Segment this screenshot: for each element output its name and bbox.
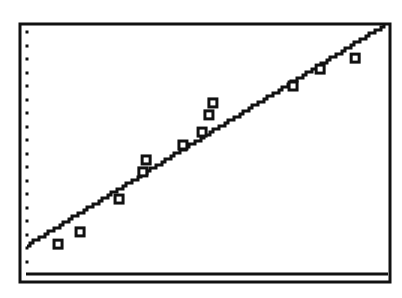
data-point [289,82,297,90]
y-tick [26,234,29,237]
y-tick [26,72,29,75]
data-point [316,65,324,73]
y-tick [26,166,29,169]
y-tick [26,220,29,223]
data-point [198,128,206,136]
y-tick [26,180,29,183]
data-point [179,141,187,149]
y-tick [26,45,29,48]
data-point [139,168,147,176]
y-tick [26,193,29,196]
y-tick [26,31,29,34]
y-tick [26,261,29,264]
y-tick [26,112,29,115]
data-point [351,54,359,62]
scatter-plot [0,0,402,298]
y-tick [26,126,29,129]
data-point [76,228,84,236]
y-tick [26,153,29,156]
y-tick [26,99,29,102]
y-axis-ticks [26,31,29,264]
y-tick [26,58,29,61]
data-points [54,54,359,248]
graph-frame [20,24,390,282]
y-tick [26,139,29,142]
data-point [142,156,150,164]
y-tick [26,207,29,210]
data-point [205,111,213,119]
data-point [54,240,62,248]
data-point [115,195,123,203]
y-tick [26,85,29,88]
calculator-graph-screen [0,0,402,298]
data-point [209,99,217,107]
